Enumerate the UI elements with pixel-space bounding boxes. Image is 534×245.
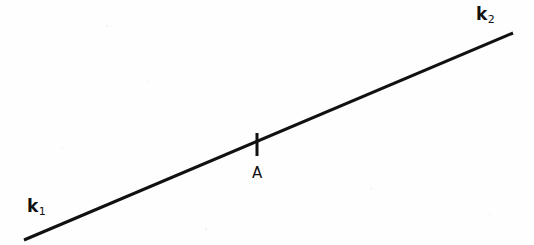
main-line — [24, 33, 513, 240]
diagram-canvas: k1 k2 A — [0, 0, 534, 245]
label-k1: k1 — [27, 198, 46, 217]
line-diagram-svg — [0, 0, 534, 245]
label-k2-base: k — [476, 4, 487, 24]
label-k1-base: k — [27, 196, 38, 216]
label-k1-subscript: 1 — [38, 205, 46, 218]
label-point-a: A — [252, 166, 262, 181]
label-k2-subscript: 2 — [487, 13, 495, 26]
label-k2: k2 — [476, 6, 495, 25]
